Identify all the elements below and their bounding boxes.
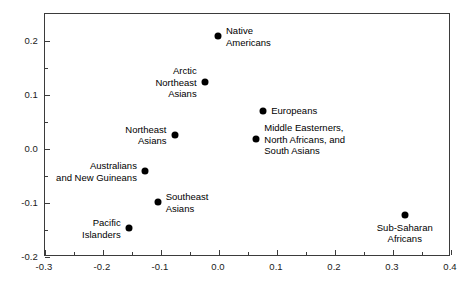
x-axis-tick <box>161 250 162 255</box>
scatter-plot-figure: -0.3-0.2-0.10.00.10.20.30.40.20.10.0-0.1… <box>0 0 474 295</box>
x-axis-minor-tick <box>74 252 75 255</box>
y-axis-minor-tick <box>45 230 48 231</box>
y-axis-tick <box>45 41 50 42</box>
x-axis-tick-label: 0.3 <box>385 261 399 272</box>
x-axis-minor-tick <box>306 252 307 255</box>
x-axis-minor-tick <box>422 252 423 255</box>
data-point[interactable] <box>171 131 178 138</box>
data-point-label: Native Americans <box>226 25 271 48</box>
data-point[interactable] <box>401 211 408 218</box>
y-axis-tick-label: -0.2 <box>21 251 38 262</box>
data-point[interactable] <box>154 199 161 206</box>
x-axis-tick <box>219 250 220 255</box>
y-axis-tick <box>45 203 50 204</box>
y-axis-tick-label: -0.1 <box>21 197 38 208</box>
x-axis-tick <box>335 250 336 255</box>
x-axis-tick <box>103 250 104 255</box>
x-axis-tick-label: 0.2 <box>327 261 341 272</box>
x-axis-tick-label: -0.2 <box>94 261 111 272</box>
x-axis-tick-label: -0.1 <box>152 261 169 272</box>
x-axis-tick <box>451 250 452 255</box>
y-axis-tick-label: 0.0 <box>24 143 38 154</box>
y-axis-tick <box>45 257 50 258</box>
y-axis-tick-label: 0.2 <box>24 35 38 46</box>
x-axis-minor-tick <box>190 252 191 255</box>
x-axis-tick <box>393 250 394 255</box>
x-axis-minor-tick <box>364 252 365 255</box>
y-axis-tick <box>45 149 50 150</box>
data-point[interactable] <box>201 79 208 86</box>
x-axis-tick <box>45 250 46 255</box>
x-axis-tick-label: 0.0 <box>211 261 225 272</box>
x-axis-tick-label: 0.4 <box>443 261 457 272</box>
data-point-label: Europeans <box>271 105 317 117</box>
data-point[interactable] <box>260 107 267 114</box>
data-point[interactable] <box>253 136 260 143</box>
data-point-label: Australians and New Guineans <box>56 160 137 183</box>
data-point-label: Middle Easterners, North Africans, and S… <box>264 122 345 157</box>
data-point[interactable] <box>141 168 148 175</box>
data-point-label: Northeast Asians <box>125 123 166 146</box>
x-axis-tick-label: -0.3 <box>36 261 53 272</box>
data-point[interactable] <box>215 33 222 40</box>
y-axis-tick-label: 0.1 <box>24 89 38 100</box>
x-axis-minor-tick <box>132 252 133 255</box>
x-axis-minor-tick <box>248 252 249 255</box>
data-point-label: Pacific Islanders <box>82 217 121 240</box>
data-point-label: Sub-Saharan Africans <box>377 222 433 245</box>
y-axis-tick <box>45 95 50 96</box>
data-point-label: Southeast Asians <box>166 191 209 214</box>
y-axis-minor-tick <box>45 176 48 177</box>
data-point-label: Arctic Northeast Asians <box>155 65 196 100</box>
x-axis-tick <box>277 250 278 255</box>
x-axis-tick-label: 0.1 <box>269 261 283 272</box>
data-point[interactable] <box>125 225 132 232</box>
y-axis-minor-tick <box>45 68 48 69</box>
y-axis-minor-tick <box>45 122 48 123</box>
